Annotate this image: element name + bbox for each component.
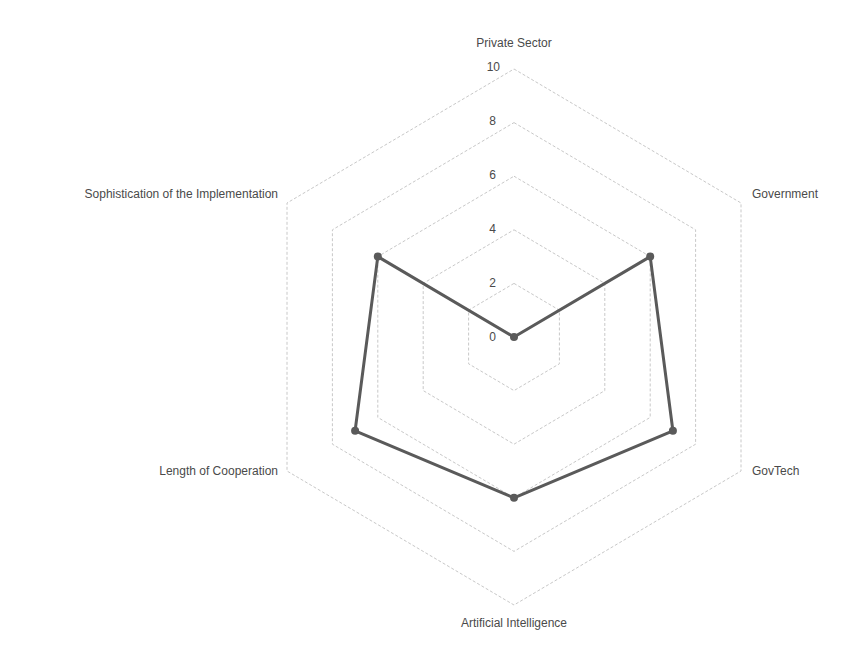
axis-labels: Private Sector Government GovTech Artifi… xyxy=(85,36,819,630)
axis-label-length-of-cooperation: Length of Cooperation xyxy=(159,464,278,478)
axis-label-private-sector: Private Sector xyxy=(476,36,551,50)
data-point-marker xyxy=(510,494,518,502)
tick-label-8: 8 xyxy=(489,114,496,128)
data-point-marker xyxy=(669,427,677,435)
tick-label-2: 2 xyxy=(489,276,496,290)
series-line xyxy=(355,257,673,498)
tick-label-10: 10 xyxy=(487,60,501,74)
axis-label-government: Government xyxy=(752,187,819,201)
axis-label-govtech: GovTech xyxy=(752,464,799,478)
tick-label-0: 0 xyxy=(489,330,496,344)
tick-label-6: 6 xyxy=(489,168,496,182)
data-point-marker xyxy=(374,253,382,261)
data-point-marker xyxy=(646,253,654,261)
radar-series xyxy=(351,253,677,502)
radar-chart: 0 2 4 6 8 10 Private Sector Government G… xyxy=(0,0,860,654)
axis-label-sophistication: Sophistication of the Implementation xyxy=(85,187,278,201)
data-point-marker xyxy=(351,427,359,435)
radial-tick-labels: 0 2 4 6 8 10 xyxy=(487,60,501,344)
axis-label-artificial-intelligence: Artificial Intelligence xyxy=(461,616,567,630)
tick-label-4: 4 xyxy=(489,222,496,236)
data-point-marker xyxy=(510,333,518,341)
